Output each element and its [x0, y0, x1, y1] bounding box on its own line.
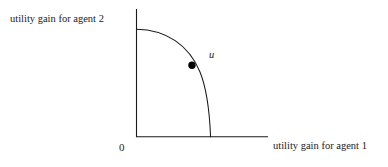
- utility-possibility-frontier-figure: utility gain for agent 2 utility gain fo…: [0, 0, 388, 167]
- frontier-curve: [137, 29, 211, 137]
- plot-area: [0, 0, 388, 167]
- utility-point-marker: [188, 61, 195, 68]
